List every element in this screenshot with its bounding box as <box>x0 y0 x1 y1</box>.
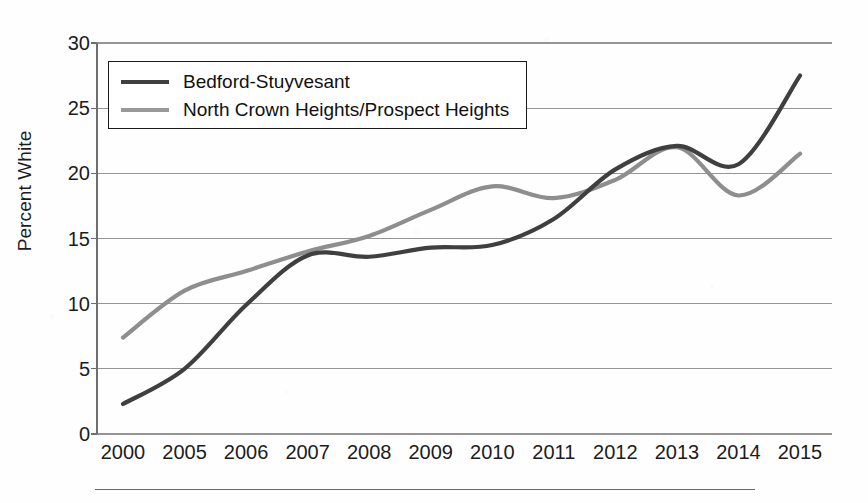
x-tick-label: 2013 <box>655 441 700 464</box>
chart-figure: Percent White 051015202530 2000200520062… <box>0 0 868 503</box>
x-tick-label: 2015 <box>778 441 823 464</box>
x-tick-label: 2011 <box>532 441 575 464</box>
page-rule-divider <box>95 489 755 490</box>
x-tick-label: 2009 <box>408 441 453 464</box>
x-tick-label: 2005 <box>162 441 207 464</box>
x-tick-label: 2000 <box>101 441 146 464</box>
legend-entry[interactable]: North Crown Heights/Prospect Heights <box>109 96 526 124</box>
x-tick-label: 2014 <box>716 441 761 464</box>
x-tick-label: 2006 <box>224 441 269 464</box>
legend-label: North Crown Heights/Prospect Heights <box>183 99 509 121</box>
x-tick-label: 2008 <box>347 441 392 464</box>
chart-legend: Bedford-StuyvesantNorth Crown Heights/Pr… <box>108 61 527 129</box>
x-axis-tick-labels: 2000200520062007200820092010201120122013… <box>0 441 868 471</box>
x-tick-label: 2007 <box>285 441 330 464</box>
x-tick-label: 2012 <box>593 441 638 464</box>
legend-label: Bedford-Stuyvesant <box>183 71 350 93</box>
legend-line-swatch-icon <box>121 108 169 112</box>
legend-entry[interactable]: Bedford-Stuyvesant <box>109 68 526 96</box>
x-tick-label: 2010 <box>470 441 515 464</box>
series-line-north-crown-heights-prospect-heights <box>123 147 800 337</box>
legend-line-swatch-icon <box>121 80 169 84</box>
